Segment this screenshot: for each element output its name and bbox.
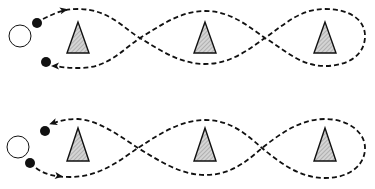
cone-icon — [314, 128, 336, 161]
cone-icon — [314, 22, 336, 53]
diagram-canvas — [0, 0, 375, 189]
drill-panel-top — [9, 6, 365, 70]
arrowhead-icon — [51, 63, 59, 70]
player-dot-icon — [25, 158, 35, 168]
player-dot-icon — [40, 126, 50, 136]
player-dot-icon — [41, 57, 51, 67]
start-marker-icon — [7, 136, 29, 158]
drill-panel-bottom — [7, 118, 365, 180]
cone-icon — [67, 128, 89, 161]
player-dot-icon — [32, 18, 42, 28]
start-marker-icon — [9, 25, 31, 47]
cone-icon — [194, 128, 216, 161]
drill-diagram — [0, 0, 375, 189]
cone-icon — [194, 22, 216, 53]
cone-icon — [67, 22, 89, 53]
